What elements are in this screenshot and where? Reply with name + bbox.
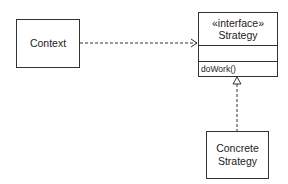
hollow-triangle-icon	[233, 77, 241, 84]
concrete-name-line2: Strategy	[218, 155, 257, 168]
strategy-interface-box: «interface» Strategy doWork()	[198, 12, 278, 77]
context-class-name: Context	[30, 37, 66, 50]
operation-dowork: doWork()	[201, 64, 236, 74]
operations-compartment: doWork()	[201, 62, 277, 76]
strategy-header: «interface» Strategy	[199, 13, 277, 46]
concrete-name-line1: Concrete	[216, 142, 259, 155]
stereotype-label: «interface»	[212, 17, 264, 29]
context-class-box: Context	[16, 19, 80, 68]
strategy-class-name: Strategy	[218, 29, 257, 41]
realization-arrow	[233, 77, 241, 131]
concrete-strategy-box: Concrete Strategy	[206, 131, 269, 179]
attributes-compartment	[199, 45, 277, 62]
dependency-arrow	[80, 39, 197, 47]
